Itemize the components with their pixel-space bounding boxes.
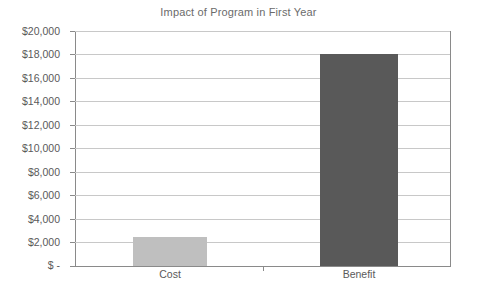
plot-area xyxy=(75,31,450,266)
y-tick-label-10000: $10,000 xyxy=(0,142,60,154)
y-tick-label-2000: $2,000 xyxy=(0,236,60,248)
x-tick-label-benefit: Benefit xyxy=(309,268,409,280)
y-tick-label-6000: $6,000 xyxy=(0,189,60,201)
y-tick-label-18000: $18,000 xyxy=(0,48,60,60)
y-tick-label-20000: $20,000 xyxy=(0,25,60,37)
y-tick-label-4000: $4,000 xyxy=(0,213,60,225)
y-tick-label-0: $ - xyxy=(0,259,60,271)
y-tick-label-8000: $8,000 xyxy=(0,166,60,178)
gridline-20000 xyxy=(75,31,450,32)
y-axis-tick-labels: $20,000 $18,000 $16,000 $14,000 $12,000 … xyxy=(0,0,68,283)
bar-cost[interactable] xyxy=(133,237,207,266)
chart-title: Impact of Program in First Year xyxy=(0,6,477,18)
plot-right-border xyxy=(450,31,451,267)
y-tick-label-16000: $16,000 xyxy=(0,72,60,84)
y-tick-label-12000: $12,000 xyxy=(0,119,60,131)
y-tick-label-14000: $14,000 xyxy=(0,95,60,107)
x-axis-category-separator xyxy=(263,266,264,271)
x-tick-label-cost: Cost xyxy=(120,268,220,280)
bar-benefit[interactable] xyxy=(320,54,398,266)
bar-chart: Impact of Program in First Year $20,000 … xyxy=(0,0,477,283)
